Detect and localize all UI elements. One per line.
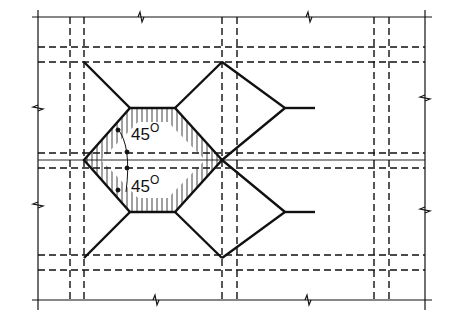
angle-unit-upper: O: [150, 121, 159, 135]
arrowhead-icon: [116, 188, 120, 192]
structural-plan-diagram: 45 O 45 O: [0, 0, 455, 330]
angle-label-lower: 45: [131, 177, 150, 196]
angle-label-upper: 45: [131, 125, 150, 144]
arrowhead-icon: [116, 128, 120, 132]
arrowhead-icon: [125, 150, 129, 154]
angle-unit-lower: O: [150, 173, 159, 187]
arrowhead-icon: [125, 166, 129, 170]
